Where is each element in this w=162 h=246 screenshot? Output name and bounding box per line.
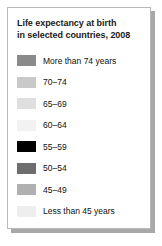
legend-item-label: 45–49 [43, 185, 67, 195]
legend-item: 50–54 [8, 158, 150, 180]
legend-color-swatch [17, 120, 36, 131]
legend-title-line-1: Life expectancy at birth [17, 18, 145, 30]
legend-color-swatch [17, 98, 36, 109]
legend-item: More than 74 years [8, 50, 150, 72]
legend-color-swatch [17, 163, 36, 174]
legend-card: Life expectancy at birth in selected cou… [7, 7, 151, 229]
legend-entry-list: More than 74 years 70–74 65–69 60–64 55–… [8, 50, 150, 222]
legend-item-label: 55–59 [43, 142, 67, 152]
legend-item: Less than 45 years [8, 201, 150, 223]
legend-color-swatch [17, 141, 36, 152]
legend-item-label: Less than 45 years [43, 206, 115, 216]
legend-item: 60–64 [8, 115, 150, 137]
legend-color-swatch [17, 55, 36, 66]
legend-item-label: 70–74 [43, 77, 67, 87]
legend-item: 65–69 [8, 93, 150, 115]
legend-title-line-2: in selected countries, 2008 [17, 30, 145, 42]
legend-color-swatch [17, 206, 36, 217]
legend-item: 70–74 [8, 72, 150, 94]
legend-color-swatch [17, 184, 36, 195]
legend-title: Life expectancy at birth in selected cou… [17, 18, 145, 41]
legend-item-label: 65–69 [43, 99, 67, 109]
legend-color-swatch [17, 77, 36, 88]
legend-item-label: 60–64 [43, 120, 67, 130]
legend-item: 55–59 [8, 136, 150, 158]
legend-item-label: 50–54 [43, 163, 67, 173]
legend-item: 45–49 [8, 179, 150, 201]
legend-item-label: More than 74 years [43, 56, 116, 66]
